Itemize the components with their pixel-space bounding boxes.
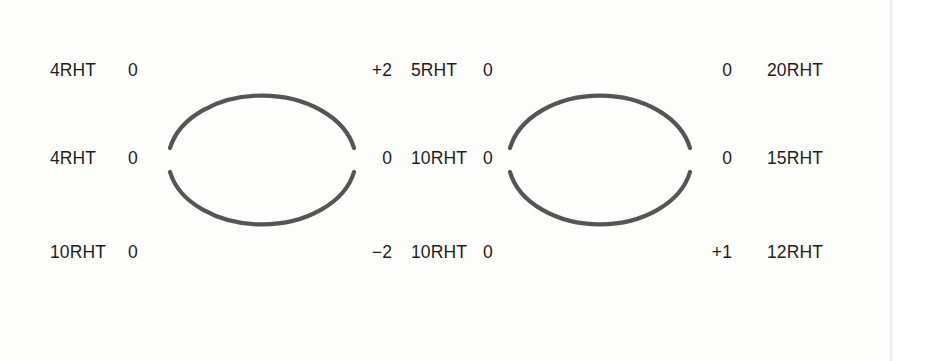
right-ellipse-arcs xyxy=(0,0,931,361)
scanned-page: 4RHT 0 +2 5RHT 4RHT 0 0 10RHT 10RHT 0 −2… xyxy=(0,0,931,361)
right-row-2-left-value: 0 xyxy=(483,150,493,168)
right-upper-arc xyxy=(510,96,690,148)
right-row-1-left-value: 0 xyxy=(483,62,493,80)
right-row-1-right-code: 20RHT xyxy=(767,62,823,80)
right-row-3-right-code: 12RHT xyxy=(767,244,823,262)
right-row-3-left-value: 0 xyxy=(483,244,493,262)
right-lower-arc xyxy=(510,172,690,224)
right-row-2-right-code: 15RHT xyxy=(767,150,823,168)
right-row-2-right-value: 0 xyxy=(690,150,732,168)
right-row-1-right-value: 0 xyxy=(690,62,732,80)
right-row-3-right-value: +1 xyxy=(683,244,732,262)
scan-outer-margin xyxy=(893,0,931,361)
